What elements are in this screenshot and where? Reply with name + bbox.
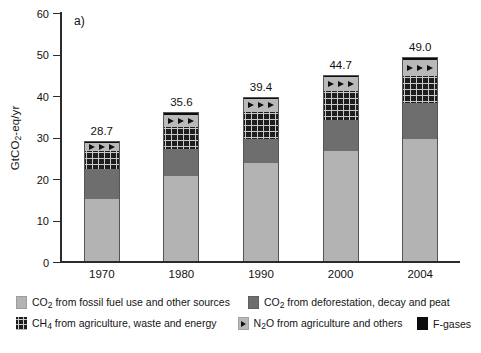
bar-group[interactable]: 44.7 [301,12,381,261]
y-axis-tick-label: 0 [43,257,49,268]
segment-co2-deforestation[interactable] [244,139,278,163]
bar-group[interactable]: 35.6 [142,12,222,261]
stacked-bar[interactable] [402,57,438,261]
y-axis-tick: 10 [53,221,60,222]
y-axis-tick-label: 10 [37,216,49,227]
x-axis-line [60,261,460,263]
stacked-bar[interactable] [323,75,359,261]
segment-co2-deforestation[interactable] [324,120,358,151]
x-axis-tick-label: 1990 [248,268,274,280]
segment-co2-fossil[interactable] [164,176,198,261]
legend-item-ch4[interactable]: CH4 from agriculture, waste and energy [16,317,217,331]
y-axis-tick: 60 [53,13,60,14]
y-axis-title-post: -eq/yr [9,105,21,135]
y-axis-title-subscript: 2 [13,135,23,140]
segment-n2o[interactable] [164,115,198,127]
segment-n2o[interactable] [403,60,437,77]
segment-ch4[interactable] [403,76,437,103]
y-axis-tick: 20 [53,179,60,180]
triangle-icon [178,118,184,124]
bar-group[interactable]: 28.7 [62,12,142,261]
legend: CO2 from fossil fuel use and other sourc… [16,292,471,334]
bar-total-label: 44.7 [329,59,351,71]
segment-ch4[interactable] [85,151,119,170]
x-axis-tick-label: 2004 [407,268,433,280]
triangle-icon [338,81,344,87]
legend-label-co2-fossil: CO2 from fossil fuel use and other sourc… [32,296,230,310]
segment-ch4[interactable] [164,127,198,149]
triangle-icon [348,81,354,87]
triangle-icon [328,81,334,87]
segment-co2-fossil[interactable] [85,199,119,261]
stacked-bar[interactable] [84,141,120,261]
legend-label-ch4: CH4 from agriculture, waste and energy [32,317,217,331]
legend-row-1: CO2 from fossil fuel use and other sourc… [16,292,471,313]
y-axis-tick: 0 [53,262,60,263]
triangle-icon [99,144,105,150]
y-axis-tick-label: 20 [37,174,49,185]
bar-group[interactable]: 39.4 [221,12,301,261]
x-axis-tick-label: 2000 [328,268,354,280]
segment-n2o[interactable] [244,99,278,112]
bar-series-container: 28.735.639.444.749.0 [62,12,460,261]
legend-item-f-gases[interactable]: F-gases [417,317,471,330]
bar-total-label: 35.6 [170,96,192,108]
segment-n2o[interactable] [324,77,358,91]
bar-total-label: 28.7 [91,125,113,137]
emissions-stacked-bar-figure: GtCO2-eq/yr a) 0102030405060 28.735.639.… [0,0,481,353]
x-axis-tick-label: 1980 [169,268,195,280]
y-axis-title-pre: GtCO [9,140,21,170]
segment-co2-deforestation[interactable] [403,103,437,139]
segment-n2o[interactable] [85,143,119,150]
co2-fossil-swatch [16,296,27,309]
segment-co2-fossil[interactable] [244,163,278,261]
legend-item-co2-fossil[interactable]: CO2 from fossil fuel use and other sourc… [16,296,230,310]
segment-ch4[interactable] [324,91,358,120]
legend-item-n2o[interactable]: N2O from agriculture and others [238,317,403,331]
co2-deforestation-swatch [248,296,259,309]
plot-area: 0102030405060 28.735.639.444.749.0 19701… [60,12,460,263]
triangle-icon [89,144,95,150]
segment-co2-fossil[interactable] [324,151,358,261]
y-axis-tick-label: 30 [37,133,49,144]
segment-ch4[interactable] [244,112,278,139]
bar-total-label: 39.4 [250,81,272,93]
y-axis-tick-label: 50 [37,50,49,61]
y-axis-tick-label: 60 [37,8,49,19]
triangle-icon [109,144,115,150]
triangle-icon [258,102,264,108]
legend-row-2: CH4 from agriculture, waste and energy N… [16,313,471,334]
x-axis-tick-label: 1970 [89,268,115,280]
stacked-bar[interactable] [163,112,199,261]
legend-item-co2-deforestation[interactable]: CO2 from deforestation, decay and peat [248,296,450,310]
triangle-icon [241,321,246,327]
ch4-swatch [16,317,27,330]
triangle-icon [188,118,194,124]
legend-label-co2-deforestation: CO2 from deforestation, decay and peat [264,296,450,310]
triangle-icon [268,102,274,108]
triangle-icon [248,102,254,108]
y-axis-tick: 30 [53,138,60,139]
bar-group[interactable]: 49.0 [380,12,460,261]
bar-total-label: 49.0 [409,41,431,53]
y-axis-title: GtCO2-eq/yr [8,12,24,263]
triangle-icon [407,65,413,71]
triangle-icon [417,65,423,71]
f-gases-swatch [417,317,428,330]
y-axis-tick: 40 [53,96,60,97]
legend-label-n2o: N2O from agriculture and others [254,317,403,331]
triangle-icon [427,65,433,71]
y-axis-tick-label: 40 [37,91,49,102]
segment-co2-fossil[interactable] [403,139,437,261]
segment-co2-deforestation[interactable] [164,149,198,176]
stacked-bar[interactable] [243,97,279,261]
triangle-icon [168,118,174,124]
y-axis-tick: 50 [53,55,60,56]
segment-co2-deforestation[interactable] [85,169,119,198]
n2o-swatch [238,317,249,330]
legend-label-f-gases: F-gases [433,318,471,330]
